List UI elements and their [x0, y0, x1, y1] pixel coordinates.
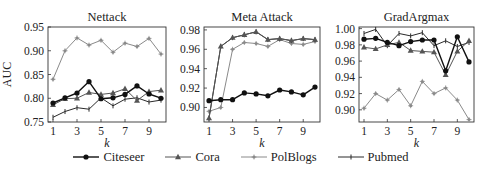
- x-tick-label: 9: [454, 125, 460, 137]
- y-tick-label: 0.90: [24, 45, 44, 57]
- y-tick-label: 0.94: [335, 71, 355, 83]
- y-axis-label: AUC: [0, 62, 14, 87]
- y-tick-label: 0.85: [24, 69, 44, 81]
- chart-title: Meta Attack: [231, 10, 293, 24]
- legend-item-pubmed: Pubmed: [337, 150, 409, 165]
- series-polblogs: [362, 79, 472, 122]
- x-tick-label: 7: [431, 125, 437, 137]
- y-tick-label: 0.96: [335, 55, 355, 67]
- circle-marker-icon: [72, 151, 100, 163]
- x-tick-label: 5: [98, 125, 104, 137]
- chart-title: GradArgmax: [384, 10, 450, 24]
- y-tick-label: 0.80: [24, 92, 44, 104]
- y-tick-label: 0.98: [180, 24, 200, 36]
- legend-label: Cora: [195, 150, 219, 165]
- x-tick-label: 9: [146, 125, 152, 137]
- legend-item-cora: Cora: [164, 150, 219, 165]
- y-tick-label: 0.96: [180, 43, 200, 55]
- chart-gradargmax: GradArgmax0.900.920.940.960.981.0013579k: [335, 10, 474, 150]
- x-tick-label: 7: [277, 125, 283, 137]
- triangle-marker-icon: [164, 151, 192, 163]
- y-tick-label: 1.00: [335, 23, 355, 35]
- series-polblogs: [207, 37, 318, 114]
- star-marker-icon: [240, 151, 268, 163]
- y-tick-label: 0.75: [24, 116, 44, 128]
- x-tick-label: 3: [384, 125, 390, 137]
- x-tick-label: 3: [74, 125, 80, 137]
- x-tick-label: 7: [122, 125, 128, 137]
- legend: CiteseerCoraPolBlogsPubmed: [0, 147, 481, 167]
- legend-label: Pubmed: [368, 150, 409, 165]
- y-tick-label: 0.98: [335, 39, 355, 51]
- y-tick-label: 0.92: [180, 82, 200, 94]
- y-tick-label: 0.92: [335, 88, 355, 100]
- legend-item-polblogs: PolBlogs: [240, 150, 317, 165]
- series-citeseer: [361, 34, 471, 73]
- legend-item-citeseer: Citeseer: [72, 150, 144, 165]
- y-tick-label: 0.95: [24, 21, 44, 33]
- y-tick-label: 0.90: [180, 101, 200, 113]
- chart-nettack: Nettack0.750.800.850.900.9513579kAUC: [0, 10, 166, 150]
- legend-label: PolBlogs: [271, 150, 317, 165]
- legend-label: Citeseer: [103, 150, 144, 165]
- x-tick-label: 9: [300, 125, 306, 137]
- chart-title: Nettack: [88, 10, 128, 24]
- x-tick-label: 1: [50, 125, 56, 137]
- y-tick-label: 0.94: [180, 63, 200, 75]
- x-tick-label: 3: [230, 125, 236, 137]
- plus-marker-icon: [337, 151, 365, 163]
- chart-meta-attack: Meta Attack0.900.920.940.960.9813579k: [180, 10, 320, 150]
- x-tick-label: 1: [361, 125, 367, 137]
- plot-frame: [48, 27, 166, 122]
- x-tick-label: 5: [253, 125, 259, 137]
- series-polblogs: [51, 35, 164, 81]
- x-tick-label: 1: [206, 125, 212, 137]
- y-tick-label: 0.90: [335, 104, 355, 116]
- series-cora: [206, 29, 318, 121]
- series-pubmed: [364, 27, 469, 49]
